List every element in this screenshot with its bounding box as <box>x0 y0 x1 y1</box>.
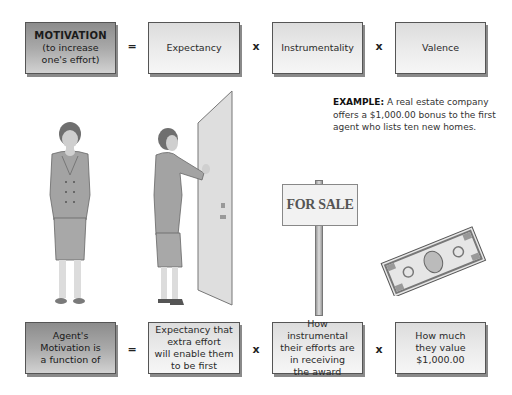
valence-box: Valence <box>395 22 486 74</box>
times-sign-top-2: x <box>372 40 386 53</box>
woman-at-door-illustration <box>148 85 238 310</box>
valence-explanation-box: How much they value $1,000.00 <box>395 322 486 374</box>
equals-sign-bottom: = <box>125 343 139 356</box>
instrumentality-box: Instrumentality <box>272 22 363 74</box>
times-sign-bottom-2: x <box>372 343 386 356</box>
expectancy-line-3: will enable them <box>155 348 234 359</box>
instrumentality-line-1: How instrumental <box>287 318 348 341</box>
motivation-subtitle-2: one's effort) <box>42 54 100 65</box>
valence-line-3: $1,000.00 <box>416 354 464 365</box>
times-sign-bottom-1: x <box>249 343 263 356</box>
instrumentality-explanation-box: How instrumental their efforts are in re… <box>272 322 363 374</box>
sign-board: FOR SALE <box>282 184 358 226</box>
instrumentality-line-3: in receiving <box>290 354 345 365</box>
example-text: EXAMPLE: A real estate company offers a … <box>333 96 505 134</box>
instrumentality-label: Instrumentality <box>278 42 357 54</box>
agent-line-1: Agent's <box>53 330 89 341</box>
expectancy-box: Expectancy <box>148 22 240 74</box>
valence-label: Valence <box>419 42 462 54</box>
equals-sign-top: = <box>125 40 139 53</box>
expectancy-line-1: Expectancy that <box>155 324 232 335</box>
example-label: EXAMPLE: <box>333 97 384 107</box>
thousand-dollar-bill-illustration <box>378 226 488 296</box>
valence-line-1: How much <box>415 330 465 341</box>
instrumentality-line-4: the award <box>294 366 342 377</box>
motivation-subtitle-1: (to increase <box>42 42 98 53</box>
valence-line-2: they value <box>415 342 465 353</box>
agent-line-2: Motivation is <box>40 342 101 353</box>
thinking-woman-illustration <box>40 120 100 310</box>
expectancy-line-4: to be first <box>171 360 217 371</box>
times-sign-top-1: x <box>249 40 263 53</box>
expectancy-label: Expectancy <box>163 42 224 54</box>
instrumentality-line-2: their efforts are <box>280 342 354 353</box>
sign-text: FOR SALE <box>286 197 353 213</box>
agent-line-3: a function of <box>41 354 101 365</box>
agent-motivation-box: Agent's Motivation is a function of <box>25 322 116 374</box>
expectancy-explanation-box: Expectancy that extra effort will enable… <box>148 322 240 374</box>
motivation-title: MOTIVATION <box>34 30 106 41</box>
motivation-box: MOTIVATION (to increase one's effort) <box>25 22 116 74</box>
expectancy-line-2: extra effort <box>167 336 221 347</box>
for-sale-sign: FOR SALE <box>282 180 358 320</box>
